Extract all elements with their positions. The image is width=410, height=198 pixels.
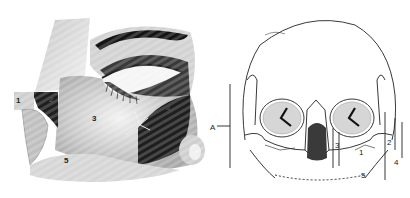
label-4: 1 bbox=[16, 96, 21, 105]
label-2: 2 bbox=[49, 95, 54, 104]
label-3: 4 bbox=[166, 104, 171, 113]
label-2: 2 bbox=[387, 138, 392, 147]
label-1: 3 bbox=[92, 114, 97, 123]
label-5: 5 bbox=[361, 171, 366, 180]
label-A: A bbox=[210, 123, 216, 132]
label-3: 3 bbox=[335, 141, 340, 150]
label-4: 4 bbox=[394, 158, 399, 167]
skull-illustration: A 1 2 3 4 5 bbox=[205, 0, 410, 198]
skull-drawing: A 1 2 3 4 5 bbox=[205, 0, 410, 198]
label-5: 5 bbox=[64, 156, 69, 165]
eye-region-drawing: 1 2 3 4 5 bbox=[0, 0, 205, 198]
label-1: 1 bbox=[359, 148, 364, 157]
eye-region-illustration: 1 2 3 4 5 bbox=[0, 0, 205, 198]
